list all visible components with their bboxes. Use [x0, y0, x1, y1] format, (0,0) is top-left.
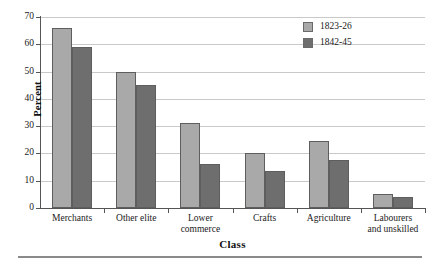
y-tick-label: 70: [25, 12, 35, 22]
bar: [393, 197, 413, 208]
bar: [136, 85, 156, 208]
gridline: [40, 99, 425, 100]
y-tick-label: 60: [25, 40, 35, 50]
bar-chart-figure: 010203040506070 MerchantsOther eliteLowe…: [0, 0, 435, 265]
category-label: Crafts: [233, 213, 297, 224]
bar: [200, 164, 220, 208]
bar: [116, 72, 136, 208]
legend-swatch: [303, 22, 313, 32]
category-label: Lowercommerce: [168, 213, 232, 235]
gridline: [40, 126, 425, 127]
gridline: [40, 72, 425, 73]
gridline: [40, 17, 425, 18]
category-label: Merchants: [40, 213, 104, 224]
x-axis-title: Class: [40, 238, 425, 250]
legend-label: 1842-45: [320, 38, 352, 48]
gridline: [40, 181, 425, 182]
y-tick-label: 0: [29, 203, 34, 213]
bar: [265, 171, 285, 208]
category-label: Agriculture: [297, 213, 361, 224]
category-label: Other elite: [104, 213, 168, 224]
x-tick-mark: [425, 208, 426, 213]
gridline: [40, 153, 425, 154]
y-tick-label: 10: [25, 176, 35, 186]
bar: [52, 28, 72, 208]
bar: [373, 194, 393, 208]
bar: [309, 141, 329, 208]
legend-label: 1823-26: [320, 22, 352, 32]
legend: 1823-261842-45: [303, 19, 381, 51]
bar: [180, 123, 200, 208]
category-label: Labourersand unskilled: [361, 213, 425, 235]
legend-item: 1823-26: [303, 19, 381, 35]
bar: [72, 47, 92, 208]
legend-swatch: [303, 38, 313, 48]
bar: [245, 153, 265, 208]
y-tick-label: 20: [25, 149, 35, 159]
bottom-divider-rule: [18, 256, 422, 258]
y-axis-title: Percent: [32, 54, 43, 144]
bar: [329, 160, 349, 208]
legend-item: 1842-45: [303, 35, 381, 51]
